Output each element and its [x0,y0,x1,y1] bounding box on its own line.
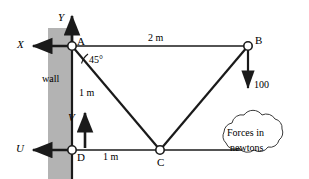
node-label-C: C [157,157,164,168]
dimension-label-AB: 2 m [148,33,163,43]
figure-canvas: A B C D Y X U V 2 m 1 m 1 m 45° 100 wall… [0,0,309,179]
reaction-label-X: X [17,39,24,50]
wall-label: wall [42,74,59,84]
dimension-label-DC: 1 m [103,152,118,162]
node-label-B: B [255,35,262,46]
wall-strip [48,28,72,179]
load-label-100: 100 [254,80,269,90]
note-line-2: newtons [230,143,263,153]
reaction-label-V: V [68,112,75,123]
note-line-1: Forces in [227,128,264,138]
joint-B [244,42,252,50]
node-label-D: D [77,152,85,163]
reaction-label-U: U [16,143,24,154]
angle-label-45: 45° [89,55,103,65]
joint-A [68,42,76,50]
node-label-A: A [77,36,85,47]
joint-C [156,146,164,154]
joint-D [68,146,76,154]
axis-label-Y: Y [58,12,64,23]
dimension-label-AD: 1 m [79,88,94,98]
